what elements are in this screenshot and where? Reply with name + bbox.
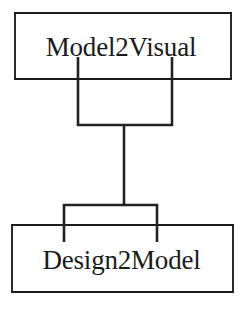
node-design2model[interactable]: Design2Model xyxy=(11,224,234,293)
node-label-design2model: Design2Model xyxy=(42,247,200,274)
node-model2visual[interactable]: Model2Visual xyxy=(14,12,232,80)
node-label-model2visual: Model2Visual xyxy=(46,34,196,61)
diagram-canvas: Model2Visual Design2Model xyxy=(0,0,246,311)
